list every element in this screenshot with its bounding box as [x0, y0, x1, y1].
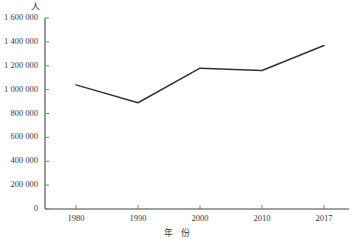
plot-area	[0, 0, 357, 243]
line-chart: 人 0200 000400 000600 000800 0001 000 000…	[0, 0, 357, 243]
axes	[45, 18, 349, 209]
x-axis-tick-label: 2000	[192, 214, 209, 223]
x-axis-tick-label: 1990	[130, 214, 147, 223]
x-axis-title: 年 份	[0, 228, 357, 238]
x-axis-tick-label: 2017	[316, 214, 333, 223]
data-series-line	[76, 45, 324, 102]
x-axis-tick-label: 2010	[254, 214, 271, 223]
x-axis-tick-label: 1980	[68, 214, 85, 223]
